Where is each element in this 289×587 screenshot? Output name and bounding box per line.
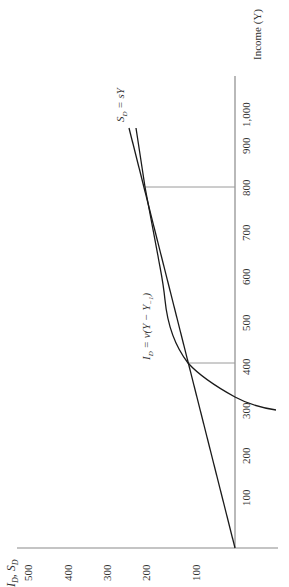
income-tick-label: 500 — [240, 315, 252, 332]
income-tick-label: 900 — [240, 138, 252, 155]
id-curve-label: ID = v(Y − Y−1) — [140, 293, 155, 360]
sd-curve-label: SD = sY — [114, 88, 129, 122]
is-tick-label: 100 — [190, 565, 202, 582]
income-tick-label: 400 — [240, 359, 252, 376]
income-tick-label: 300 — [240, 403, 252, 420]
income-tick-label: 700 — [240, 225, 252, 242]
id-investment-curve — [136, 128, 276, 410]
income-tick-label: 600 — [240, 269, 252, 286]
income-tick-label: 1,000 — [240, 102, 252, 127]
is-tick-label: 400 — [62, 565, 74, 582]
income-tick-label: 100 — [240, 490, 252, 507]
income-tick-label: 800 — [240, 180, 252, 197]
income-axis-label: Income (Y) — [251, 9, 263, 60]
is-axis-label: ID, SD — [4, 559, 20, 587]
is-tick-label: 500 — [22, 565, 34, 582]
is-tick-label: 300 — [101, 565, 113, 582]
is-tick-label: 200 — [140, 565, 152, 582]
income-tick-label: 200 — [240, 448, 252, 465]
